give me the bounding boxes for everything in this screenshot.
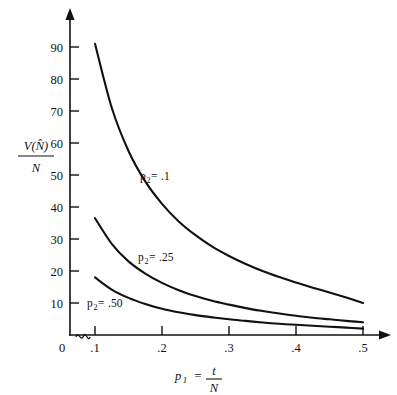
chart-svg: 90 80 70 60 50 40 30 20 10 0 .1 .2 .3 .4… <box>0 0 397 395</box>
y-tick-marks <box>70 47 79 303</box>
curve-label-series-0: p 2 = .1 <box>140 170 170 185</box>
curve-label-series-1: p 2 = .25 <box>138 251 174 266</box>
curve-label-1-symbol: p <box>138 251 144 264</box>
y-tick-label-20: 20 <box>51 265 64 279</box>
y-tick-labels: 90 80 70 60 50 40 30 20 10 <box>51 41 64 311</box>
curve-label-1-equals: = <box>149 251 156 263</box>
curve-label-2-equals: = <box>98 297 105 309</box>
x-tick-label-0.5: .5 <box>358 341 367 355</box>
curve-label-0-subscript: 2 <box>147 176 151 185</box>
y-axis-title: V(N̂) N <box>18 139 54 175</box>
curve-series-2 <box>95 277 363 328</box>
curve-label-0-symbol: p <box>140 170 146 183</box>
y-tick-label-30: 30 <box>51 233 64 247</box>
x-axis <box>70 330 391 339</box>
x-axis-arrow-icon <box>379 330 391 339</box>
x-axis-title-numerator: t <box>212 364 216 378</box>
curve-label-2-symbol: p <box>87 297 93 310</box>
y-tick-label-60: 60 <box>51 137 64 151</box>
curve-label-series-2: p 2 = .50 <box>87 297 123 312</box>
x-tick-marks <box>95 326 363 335</box>
x-tick-label-0.1: .1 <box>90 341 99 355</box>
x-axis-title-symbol: p <box>174 369 181 383</box>
chart-figure: 90 80 70 60 50 40 30 20 10 0 .1 .2 .3 .4… <box>0 0 397 395</box>
x-axis-title-denominator: N <box>209 381 219 395</box>
x-tick-label-0.4: .4 <box>291 341 301 355</box>
x-axis-title-subscript: 1 <box>183 375 188 385</box>
curve-label-1-subscript: 2 <box>145 257 149 266</box>
y-tick-label-80: 80 <box>51 73 64 87</box>
y-tick-label-70: 70 <box>51 105 64 119</box>
y-axis-title-denominator: N <box>31 161 41 175</box>
chart-curves <box>95 44 363 329</box>
curve-series-1 <box>95 218 363 322</box>
x-tick-label-0: 0 <box>59 341 65 355</box>
y-axis <box>65 8 74 335</box>
curve-label-1-value: .25 <box>159 251 174 263</box>
curve-label-0-equals: = <box>151 170 158 182</box>
y-axis-arrow-icon <box>65 8 74 20</box>
curve-label-2-value: .50 <box>108 297 123 309</box>
curve-series-0 <box>95 44 363 303</box>
x-tick-label-0.3: .3 <box>224 341 233 355</box>
x-axis-title-equals: = <box>194 369 202 383</box>
y-tick-label-10: 10 <box>51 297 64 311</box>
y-axis-title-numerator: V(N̂) <box>24 139 48 153</box>
y-tick-label-90: 90 <box>51 41 64 55</box>
x-axis-title: p 1 = t N <box>174 364 222 395</box>
x-tick-label-0.2: .2 <box>157 341 166 355</box>
curve-label-0-value: .1 <box>161 170 170 182</box>
curve-label-2-subscript: 2 <box>94 303 98 312</box>
y-tick-label-50: 50 <box>51 169 64 183</box>
y-tick-label-40: 40 <box>51 201 64 215</box>
x-tick-labels: 0 .1 .2 .3 .4 .5 <box>59 341 368 355</box>
